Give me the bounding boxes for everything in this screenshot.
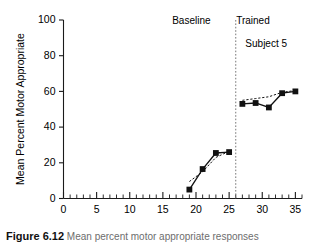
caption-body: Mean percent motor appropriate responses [64, 231, 259, 242]
data-point-marker [253, 100, 259, 106]
y-tick-label: 60 [44, 85, 56, 97]
annotation-subject: Subject 5 [245, 38, 287, 49]
series-path-trained-trend [242, 91, 295, 101]
x-axis-tick-labels: 05101520253035 [61, 203, 302, 215]
x-tick-label: 35 [290, 203, 302, 215]
data-point-marker [279, 90, 285, 96]
x-tick-label: 15 [157, 203, 169, 215]
y-axis-title: Mean Percent Motor Appropriate [14, 33, 26, 185]
x-tick-label: 20 [190, 203, 202, 215]
x-axis-minor-ticks [70, 195, 302, 199]
figure-container: 020406080100 05101520253035 Mean Percent… [0, 0, 314, 242]
y-tick-label: 40 [44, 120, 56, 132]
x-tick-label: 25 [223, 203, 235, 215]
y-axis-ticks: 020406080100 [38, 13, 64, 204]
data-point-marker [200, 166, 206, 172]
data-point-marker [213, 150, 219, 156]
x-axis-major-ticks [64, 192, 296, 199]
data-point-marker [226, 149, 232, 155]
annotation-trained: Trained [236, 15, 270, 26]
data-point-marker [186, 187, 192, 193]
data-point-marker [239, 101, 245, 107]
x-tick-label: 5 [94, 203, 100, 215]
x-tick-label: 10 [124, 203, 136, 215]
data-point-marker [292, 89, 298, 95]
data-point-marker [266, 105, 272, 111]
figure-caption: Figure 6.12 Mean percent motor appropria… [6, 230, 314, 242]
chart-canvas: 020406080100 05101520253035 Mean Percent… [0, 0, 314, 242]
series-path-baseline [189, 152, 229, 189]
x-tick-label: 0 [61, 203, 67, 215]
data-markers-group [186, 89, 298, 193]
x-tick-label: 30 [256, 203, 268, 215]
y-tick-label: 100 [38, 13, 56, 25]
y-tick-label: 20 [44, 156, 56, 168]
y-tick-label: 0 [50, 192, 56, 204]
caption-number: Figure 6.12 [6, 230, 64, 242]
y-tick-label: 80 [44, 49, 56, 61]
annotation-baseline: Baseline [172, 15, 211, 26]
series-path-baseline-trend [189, 151, 229, 181]
